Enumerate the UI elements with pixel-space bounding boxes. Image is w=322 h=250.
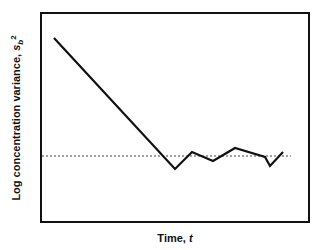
- x-axis-label-var: t: [189, 232, 193, 244]
- y-axis-label-sub: b: [16, 40, 25, 45]
- y-axis-label-sup: 2: [9, 35, 18, 39]
- y-axis-label-text: Log concentration variance,: [10, 51, 22, 201]
- y-axis-label-var: s: [10, 45, 22, 51]
- y-axis-label: Log concentration variance, sb2: [0, 0, 30, 222]
- x-axis-label-text: Time,: [157, 232, 189, 244]
- variance-series-line: [54, 38, 283, 169]
- x-axis-label: Time, t: [41, 232, 309, 244]
- plot-frame: [41, 13, 309, 222]
- chart-plot-area: [0, 0, 322, 250]
